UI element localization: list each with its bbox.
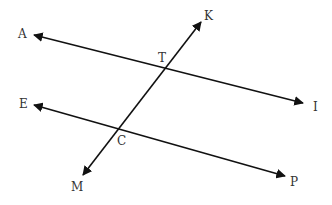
line-EP bbox=[34, 105, 285, 176]
transversal-KM bbox=[83, 22, 201, 175]
label-I: I bbox=[313, 100, 318, 114]
diagram-canvas: A I E P K M T C bbox=[0, 0, 332, 205]
label-A: A bbox=[17, 27, 27, 41]
label-K: K bbox=[204, 9, 214, 23]
label-M: M bbox=[71, 180, 83, 194]
label-T: T bbox=[158, 51, 166, 65]
diagram-svg: A I E P K M T C bbox=[0, 0, 332, 205]
label-C: C bbox=[117, 134, 126, 148]
label-P: P bbox=[290, 175, 298, 189]
label-E: E bbox=[19, 97, 28, 111]
line-AI bbox=[34, 35, 303, 103]
